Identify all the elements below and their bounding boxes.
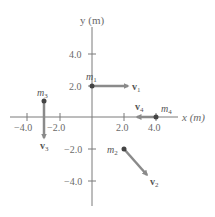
x-tick-label: 2.0 bbox=[116, 122, 129, 133]
x-tick-label: 4.0 bbox=[148, 122, 161, 133]
coordinate-diagram: −4.0 −2.0 2.0 4.0 4.0 2.0 −2.0 −4.0 y (m… bbox=[0, 0, 215, 217]
y-tick-label: −2.0 bbox=[64, 144, 82, 155]
y-axis-label: y (m) bbox=[80, 14, 104, 27]
mass-m1: m1 v1 bbox=[86, 71, 141, 94]
x-tick-label: −4.0 bbox=[14, 122, 32, 133]
y-tick-label: −4.0 bbox=[64, 176, 82, 187]
y-tick-label: 2.0 bbox=[69, 81, 82, 92]
x-axis-label: x (m) bbox=[181, 111, 205, 124]
svg-text:m4: m4 bbox=[161, 103, 172, 116]
svg-text:m3: m3 bbox=[37, 87, 48, 100]
svg-text:v1: v1 bbox=[132, 81, 141, 94]
x-tick-label: −2.0 bbox=[47, 122, 65, 133]
y-tick-label: 4.0 bbox=[69, 49, 82, 60]
svg-text:v3: v3 bbox=[40, 140, 49, 153]
svg-text:v2: v2 bbox=[150, 176, 159, 189]
mass-m3: m3 v3 bbox=[37, 87, 49, 153]
mass-m2: m2 v2 bbox=[107, 144, 159, 189]
svg-text:v4: v4 bbox=[135, 101, 144, 114]
svg-text:m2: m2 bbox=[107, 144, 118, 157]
